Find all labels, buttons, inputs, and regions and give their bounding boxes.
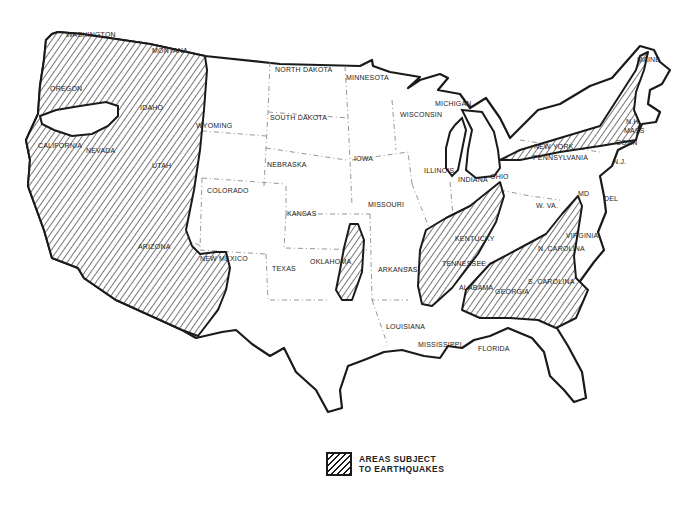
state-label: PENNSYLVANIA [533,154,588,161]
state-label: ARKANSAS [378,266,418,273]
state-label: GEORGIA [495,288,529,295]
legend-label: AREAS SUBJECT TO EARTHQUAKES [359,454,444,474]
state-label: NEBRASKA [267,161,307,168]
legend: AREAS SUBJECT TO EARTHQUAKES [326,452,444,476]
state-label: DEL [604,195,618,202]
state-label: IDAHO [140,104,164,111]
state-label: VIRGINIA [566,232,598,239]
state-label: UTAH [152,162,171,169]
state-label: KENTUCKY [455,235,495,242]
legend-line-2: TO EARTHQUAKES [359,464,444,474]
state-label: TEXAS [272,265,296,272]
legend-line-1: AREAS SUBJECT [359,454,444,464]
state-label: N.H. [626,118,641,125]
state-label: WISCONSIN [400,111,442,118]
state-label: MISSISSIPPI [418,341,462,348]
state-label: WYOMING [196,122,232,129]
state-label: OKLAHOMA [310,258,351,265]
state-label: MISSOURI [368,201,404,208]
state-label: MAINE [637,56,660,63]
state-label: TENNESSEE [442,260,486,267]
state-label: MINNESOTA [346,74,389,81]
state-label: ILLINOIS [424,167,455,174]
state-label: MD [578,190,589,197]
state-label: COLORADO [207,187,249,194]
state-label: ARIZONA [138,243,171,250]
state-label: N. CAROLINA [538,245,585,252]
state-label: CALIFORNIA [38,142,82,149]
state-label: KANSAS [287,210,317,217]
state-label: LOUISIANA [386,323,425,330]
state-label: S. CAROLINA [528,278,575,285]
state-label: N.J. [613,158,626,165]
state-label: SOUTH DAKOTA [270,114,327,121]
state-label: MASS [624,127,645,134]
state-label: INDIANA [458,176,488,183]
state-label: WASHINGTON [66,31,116,38]
state-label: MONTANA [152,47,188,54]
state-label: CONN [616,139,637,146]
state-label: ALABAMA [459,284,494,291]
state-label: NEW MEXICO [200,255,248,262]
state-label: FLORIDA [478,345,510,352]
state-label: NORTH DAKOTA [275,66,332,73]
state-label: NEVADA [86,147,116,154]
state-label: NEW YORK [534,143,574,150]
earthquake-zone-map: WASHINGTONMONTANAOREGONIDAHOWYOMINGCALIF… [0,0,699,508]
state-label: OHIO [490,173,509,180]
state-label: OREGON [50,85,82,92]
state-label: W. VA. [536,202,558,209]
hatched-square-swatch-icon [326,452,352,476]
state-label: MICHIGAN [435,100,472,107]
state-label: IOWA [354,155,373,162]
